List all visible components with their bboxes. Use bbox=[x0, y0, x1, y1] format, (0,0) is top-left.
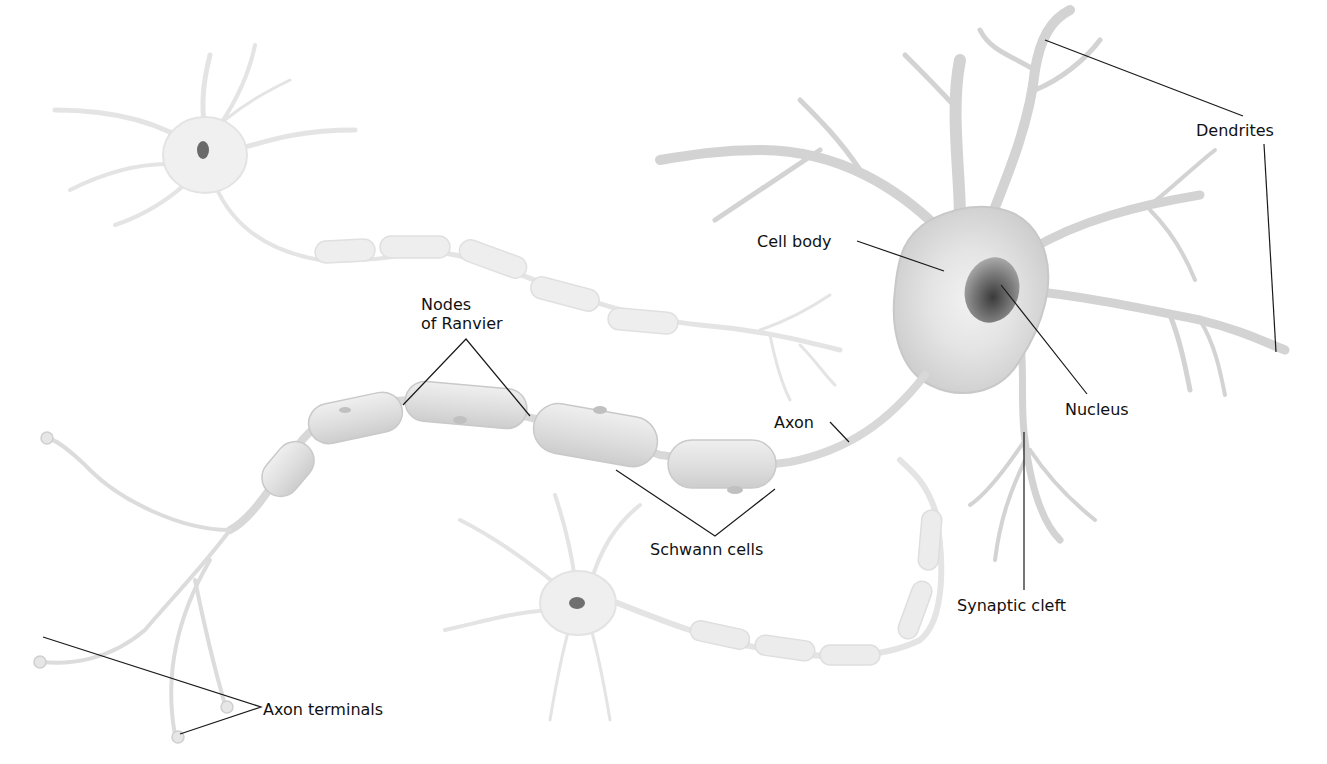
label-nodes-of-ranvier-line2: of Ranvier bbox=[421, 314, 503, 333]
axon-terminals-leader bbox=[43, 637, 261, 734]
top-left-nucleus bbox=[197, 141, 209, 159]
label-schwann-cells: Schwann cells bbox=[650, 540, 763, 559]
background-neuron-top-left bbox=[55, 45, 840, 400]
axon-leader bbox=[830, 422, 849, 442]
label-cell-body: Cell body bbox=[757, 232, 832, 251]
bottom-nucleus bbox=[569, 597, 585, 609]
label-nodes-of-ranvier-line1: Nodes bbox=[421, 295, 471, 314]
label-axon-terminals: Axon terminals bbox=[263, 700, 383, 719]
label-dendrites: Dendrites bbox=[1196, 121, 1274, 140]
label-synaptic-cleft: Synaptic cleft bbox=[957, 596, 1066, 615]
neuron-diagram bbox=[0, 0, 1327, 764]
label-axon: Axon bbox=[774, 413, 814, 432]
bottom-myelin-segments bbox=[689, 509, 943, 665]
dendrites-leader-lower bbox=[1264, 144, 1276, 352]
background-neuron-bottom bbox=[445, 460, 941, 720]
axon-terminal-branches bbox=[42, 438, 230, 735]
label-nucleus: Nucleus bbox=[1065, 400, 1129, 419]
axon-terminal-bulbs bbox=[34, 432, 233, 743]
dendrites-leader bbox=[1045, 40, 1243, 116]
